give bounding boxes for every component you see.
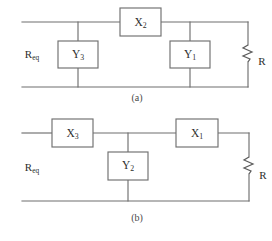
panel-a-input-port-label: Req: [25, 48, 40, 62]
panel-a-caption: (a): [131, 92, 142, 104]
figure-root: X2 Y3 Y1 Req R (a): [0, 0, 272, 241]
panel-a: X2 Y3 Y1 Req R (a): [22, 8, 266, 104]
panel-b: X3 X1 Y2 Req R (b): [22, 119, 267, 224]
panel-b-resistor-zigzag-icon: [244, 157, 253, 174]
panel-a-resistor-zigzag-icon: [243, 45, 252, 62]
panel-b-load-label: R: [259, 169, 267, 181]
panel-b-caption: (b): [131, 212, 143, 224]
panel-b-input-port-label: Req: [25, 161, 40, 175]
circuit-diagram-canvas: X2 Y3 Y1 Req R (a): [0, 0, 272, 241]
panel-a-load-label: R: [258, 55, 266, 67]
